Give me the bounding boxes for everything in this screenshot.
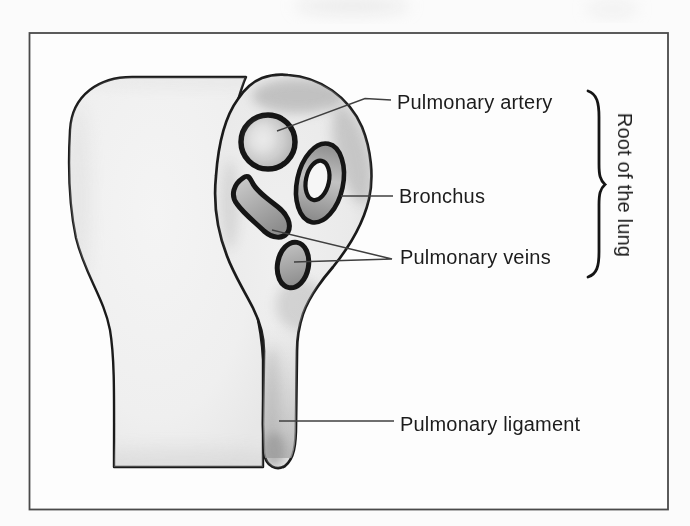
label-pulmonary-ligament: Pulmonary ligament: [400, 414, 580, 434]
label-bronchus: Bronchus: [399, 186, 485, 206]
artery-highlight: [249, 123, 275, 153]
scanned-page: Pulmonary artery Bronchus Pulmonary vein…: [0, 0, 690, 526]
label-root-of-the-lung: Root of the lung: [615, 113, 635, 257]
lung-root-diagram: [0, 0, 690, 526]
label-pulmonary-artery: Pulmonary artery: [397, 92, 552, 112]
label-pulmonary-veins: Pulmonary veins: [400, 247, 551, 267]
